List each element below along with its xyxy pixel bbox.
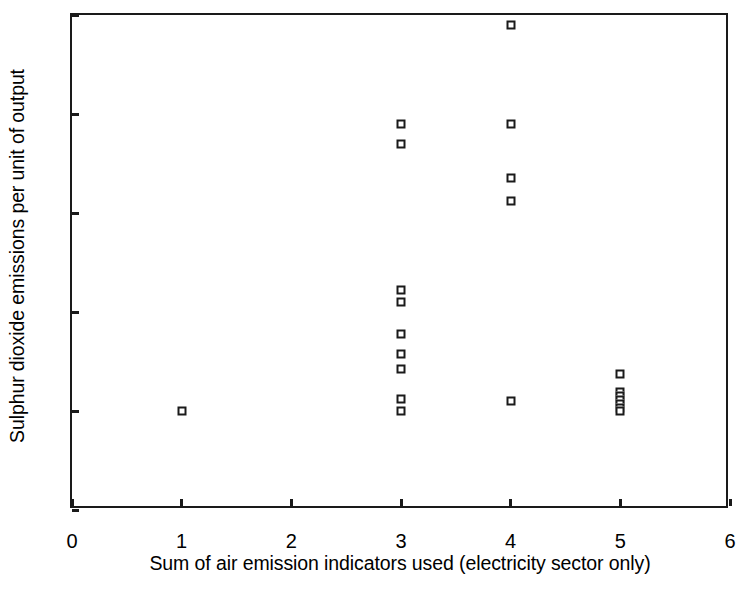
x-tick-label: 2 <box>271 531 311 551</box>
x-tick-label: 5 <box>600 531 640 551</box>
data-point <box>506 20 515 29</box>
scatter-plot-figure: Sulphur dioxide emissions per unit of ou… <box>0 0 740 595</box>
x-tick-mark <box>71 499 74 506</box>
y-tick-mark <box>72 14 79 17</box>
data-point <box>397 330 406 339</box>
plot-area: -202468 0123456 <box>70 13 728 508</box>
x-tick-label: 1 <box>162 531 202 551</box>
data-point <box>177 407 186 416</box>
x-tick-mark <box>619 499 622 506</box>
y-tick-mark <box>72 410 79 413</box>
x-tick-label: 6 <box>710 531 740 551</box>
data-point <box>616 407 625 416</box>
x-tick-label: 3 <box>381 531 421 551</box>
data-point <box>397 407 406 416</box>
data-point <box>397 350 406 359</box>
data-point <box>506 196 515 205</box>
x-tick-label: 4 <box>491 531 531 551</box>
x-tick-mark <box>509 499 512 506</box>
y-tick-mark <box>72 311 79 314</box>
y-tick-mark <box>72 509 79 512</box>
data-point <box>616 369 625 378</box>
data-point <box>506 174 515 183</box>
y-tick-mark <box>72 212 79 215</box>
x-tick-mark <box>290 499 293 506</box>
data-point <box>397 364 406 373</box>
x-tick-mark <box>729 499 732 506</box>
data-point <box>506 397 515 406</box>
data-point <box>397 119 406 128</box>
data-point <box>397 394 406 403</box>
data-point <box>506 119 515 128</box>
x-tick-mark <box>180 499 183 506</box>
y-tick-mark <box>72 113 79 116</box>
y-axis-title: Sulphur dioxide emissions per unit of ou… <box>0 0 34 516</box>
x-tick-mark <box>400 499 403 506</box>
data-point <box>397 139 406 148</box>
x-axis-title: Sum of air emission indicators used (ele… <box>70 552 730 575</box>
data-point <box>397 285 406 294</box>
x-tick-label: 0 <box>52 531 92 551</box>
data-point <box>397 298 406 307</box>
